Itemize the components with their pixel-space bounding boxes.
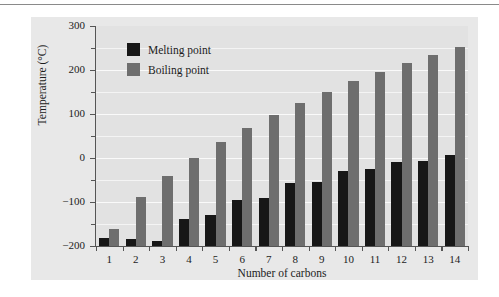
x-tick xyxy=(441,246,442,251)
y-tick-minor xyxy=(91,136,95,137)
bar-boiling-point-4 xyxy=(189,158,199,246)
bar-boiling-point-3 xyxy=(162,176,172,246)
bar-melting-point-1 xyxy=(99,238,109,246)
y-tick-minor xyxy=(91,224,95,225)
x-tick xyxy=(309,246,310,251)
x-tick-label: 6 xyxy=(230,253,254,265)
x-tick xyxy=(229,246,230,251)
bar-boiling-point-13 xyxy=(428,55,438,246)
y-tick xyxy=(90,158,95,159)
x-tick xyxy=(255,246,256,251)
x-tick xyxy=(388,246,389,251)
legend-swatch-icon xyxy=(127,43,140,56)
x-tick xyxy=(415,246,416,251)
bar-melting-point-5 xyxy=(205,215,215,246)
x-tick-label: 4 xyxy=(177,253,201,265)
gridline xyxy=(96,180,468,181)
x-tick-label: 7 xyxy=(257,253,281,265)
bar-boiling-point-7 xyxy=(269,115,279,246)
legend-item: Melting point xyxy=(127,41,211,58)
bar-melting-point-6 xyxy=(232,200,242,246)
y-tick-label: −100 xyxy=(39,195,85,207)
gridline xyxy=(96,136,468,137)
bar-boiling-point-14 xyxy=(455,47,465,246)
x-tick-label: 12 xyxy=(390,253,414,265)
gridline xyxy=(96,114,468,115)
x-tick xyxy=(362,246,363,251)
y-tick xyxy=(90,246,95,247)
x-tick xyxy=(335,246,336,251)
bar-boiling-point-12 xyxy=(402,63,412,246)
bar-melting-point-4 xyxy=(179,219,189,246)
x-tick-label: 2 xyxy=(124,253,148,265)
x-tick-label: 10 xyxy=(336,253,360,265)
y-tick-label: 0 xyxy=(39,151,85,163)
bar-boiling-point-5 xyxy=(216,142,226,246)
y-tick-minor xyxy=(91,48,95,49)
bar-melting-point-8 xyxy=(285,183,295,246)
x-tick-label: 9 xyxy=(310,253,334,265)
legend-item: Boiling point xyxy=(127,61,211,78)
x-tick xyxy=(202,246,203,251)
gridline xyxy=(96,92,468,93)
y-tick-label: −200 xyxy=(39,239,85,251)
bar-boiling-point-10 xyxy=(348,81,358,246)
y-tick xyxy=(90,202,95,203)
gridline xyxy=(96,224,468,225)
legend-label: Melting point xyxy=(148,44,211,56)
x-tick xyxy=(176,246,177,251)
x-tick-label: 13 xyxy=(416,253,440,265)
bar-melting-point-12 xyxy=(391,162,401,246)
x-tick xyxy=(282,246,283,251)
bar-melting-point-9 xyxy=(312,182,322,246)
bar-boiling-point-1 xyxy=(109,229,119,246)
bar-melting-point-3 xyxy=(152,241,162,246)
y-tick xyxy=(90,26,95,27)
bar-melting-point-2 xyxy=(126,239,136,246)
x-tick xyxy=(468,246,469,251)
bar-melting-point-11 xyxy=(365,169,375,246)
x-tick-label: 11 xyxy=(363,253,387,265)
chart-legend: Melting pointBoiling point xyxy=(127,41,211,81)
bar-melting-point-10 xyxy=(338,171,348,246)
bar-boiling-point-11 xyxy=(375,72,385,246)
legend-swatch-icon xyxy=(127,63,140,76)
bar-boiling-point-2 xyxy=(136,197,146,246)
x-tick xyxy=(123,246,124,251)
x-tick-label: 14 xyxy=(443,253,467,265)
y-tick xyxy=(90,114,95,115)
page-top-rule xyxy=(0,4,499,5)
bar-melting-point-7 xyxy=(259,198,269,246)
bar-melting-point-13 xyxy=(418,161,428,246)
bar-boiling-point-6 xyxy=(242,128,252,246)
x-tick-label: 3 xyxy=(150,253,174,265)
bar-boiling-point-9 xyxy=(322,92,332,246)
x-tick-label: 8 xyxy=(283,253,307,265)
gridline xyxy=(96,202,468,203)
y-tick-minor xyxy=(91,92,95,93)
gridline xyxy=(96,158,468,159)
y-tick-minor xyxy=(91,180,95,181)
x-tick-label: 1 xyxy=(97,253,121,265)
y-tick-label: 300 xyxy=(39,19,85,31)
y-tick-label: 100 xyxy=(39,107,85,119)
x-tick-label: 5 xyxy=(204,253,228,265)
legend-label: Boiling point xyxy=(148,64,209,76)
x-tick xyxy=(149,246,150,251)
y-tick-label: 200 xyxy=(39,63,85,75)
x-axis-title: Number of carbons xyxy=(96,267,468,279)
x-tick xyxy=(96,246,97,251)
bar-boiling-point-8 xyxy=(295,103,305,246)
chart-figure: Temperature (°C) −200−1000100200300 1234… xyxy=(31,17,478,280)
y-axis-spine xyxy=(95,26,96,247)
bar-melting-point-14 xyxy=(445,155,455,246)
y-tick xyxy=(90,70,95,71)
